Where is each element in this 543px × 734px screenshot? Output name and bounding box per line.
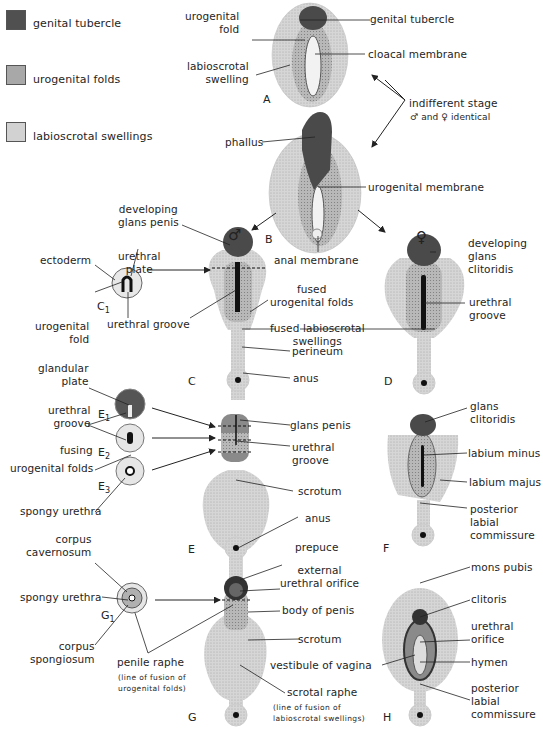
inset-letter-e2: E2 (98, 446, 110, 461)
label-scrotum-g: scrotum (298, 633, 341, 646)
legend-swatch-labioscrotal-swellings (6, 122, 26, 142)
male-symbol: ♂ (228, 226, 241, 244)
label-penile-raphe: penile raphe (117, 656, 184, 669)
label-scrotal-raphe: scrotal raphe (287, 686, 357, 699)
label-corpus-spongiosum: corpus spongiosum (30, 640, 95, 666)
label-anal-membrane: anal membrane (274, 254, 359, 267)
label-glandular-plate: glandular plate (38, 362, 89, 388)
label-urethral-groove-e-left: urethral groove (48, 404, 90, 430)
label-corpus-cavernosum: corpus cavernosum (26, 533, 91, 559)
label-anus-c: anus (293, 372, 319, 385)
legend-swatch-genital-tubercle (6, 10, 26, 30)
label-developing-glans-clitoridis: developing glans clitoridis (468, 237, 527, 276)
label-ectoderm: ectoderm (40, 254, 91, 267)
label-urethral-groove-c: urethral groove (107, 318, 190, 331)
label-clitoris: clitoris (471, 593, 507, 606)
stage-a-drawing (272, 3, 348, 107)
label-phallus: phallus (225, 136, 263, 149)
stage-letter-c: C (188, 375, 196, 388)
label-spongy-urethra-g: spongy urethra (20, 591, 102, 604)
stage-letter-h: H (383, 711, 391, 724)
stage-f-drawing (387, 414, 458, 546)
label-genital-tubercle-a: genital tubercle (370, 13, 454, 26)
label-urogenital-fold-c1: urogenital fold (35, 320, 89, 346)
stage-h-drawing (382, 588, 458, 726)
label-perineum: perineum (292, 345, 343, 358)
label-scrotum-e: scrotum (298, 485, 341, 498)
label-posterior-labial-commissure-f: posterior labial commissure (470, 503, 535, 542)
label-labioscrotal-swelling-a: labioscrotal swelling (187, 60, 249, 86)
legend-label-genital-tubercle: genital tubercle (33, 17, 121, 30)
label-urethral-groove-d: urethral groove (469, 296, 511, 322)
label-fused-urogenital-folds: fused urogenital folds (270, 283, 353, 309)
inset-letter-c1: C1 (97, 300, 110, 315)
stage-c-drawing (209, 227, 267, 400)
label-spongy-urethra-e: spongy urethra (20, 505, 102, 518)
legend-swatch-urogenital-folds (6, 65, 26, 85)
inset-letter-e3: E3 (98, 480, 110, 495)
inset-letter-e1: E1 (98, 408, 110, 423)
stage-letter-e: E (188, 543, 195, 556)
label-glans-clitoridis: glans clitoridis (470, 400, 515, 426)
stage-letter-g: G (188, 711, 197, 724)
stage-e-drawing (203, 414, 270, 580)
label-prepuce: prepuce (295, 541, 338, 554)
legend-label-labioscrotal-swellings: labioscrotal swellings (33, 130, 153, 143)
label-hymen: hymen (471, 656, 508, 669)
label-scrotal-raphe-note: (line of fusion of labioscrotal swelling… (273, 702, 365, 724)
label-anus-e: anus (305, 512, 331, 525)
stage-d-drawing (385, 234, 465, 394)
label-labium-majus: labium majus (469, 476, 541, 489)
label-urogenital-membrane: urogenital membrane (368, 181, 484, 194)
label-urethral-groove-e: urethral groove (292, 441, 334, 467)
label-labium-minus: labium minus (468, 447, 540, 460)
label-penile-raphe-note: (line of fusion of urogenital folds) (118, 672, 186, 694)
label-identical: ♂ and ♀ identical (410, 111, 490, 124)
label-indifferent-stage: indifferent stage (409, 97, 498, 110)
label-body-of-penis: body of penis (282, 604, 354, 617)
e-insets-drawing (115, 389, 145, 485)
stage-g-drawing (204, 576, 266, 726)
label-cloacal-membrane: cloacal membrane (368, 48, 467, 61)
label-urethral-orifice: urethral orifice (471, 620, 513, 646)
inset-letter-g1: G1 (101, 609, 115, 624)
label-mons-pubis: mons pubis (471, 561, 533, 574)
stage-letter-b: B (265, 233, 273, 246)
label-glans-penis: glans penis (290, 419, 351, 432)
stage-letter-f: F (383, 542, 389, 555)
stage-letter-a: A (263, 93, 271, 106)
female-symbol: ♀ (416, 228, 427, 246)
label-urogenital-folds-e: urogenital folds (10, 462, 93, 475)
label-vestibule-of-vagina: vestibule of vagina (270, 659, 372, 672)
stage-letter-d: D (384, 375, 392, 388)
label-fusing: fusing (60, 444, 93, 457)
label-developing-glans-penis: developing glans penis (118, 203, 179, 229)
label-urogenital-fold-a: urogenital fold (185, 10, 239, 36)
legend-label-urogenital-folds: urogenital folds (33, 73, 120, 86)
stage-b-drawing (269, 112, 361, 253)
label-external-urethral-orifice: external urethral orifice (280, 564, 359, 590)
label-urethral-plate: urethral plate (118, 250, 160, 276)
label-posterior-labial-commissure-h: posterior labial commissure (471, 682, 536, 721)
